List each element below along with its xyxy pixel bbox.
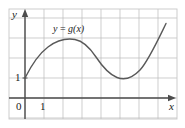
function-graph-plot — [0, 0, 185, 128]
grid-lines — [9, 9, 177, 119]
curve-g-of-x — [25, 24, 166, 79]
x-axis — [9, 95, 176, 101]
figure-frame — [9, 9, 177, 119]
y-axis — [22, 9, 28, 119]
graph-figure: y x 1 0 1 y = g(x) — [0, 0, 185, 128]
